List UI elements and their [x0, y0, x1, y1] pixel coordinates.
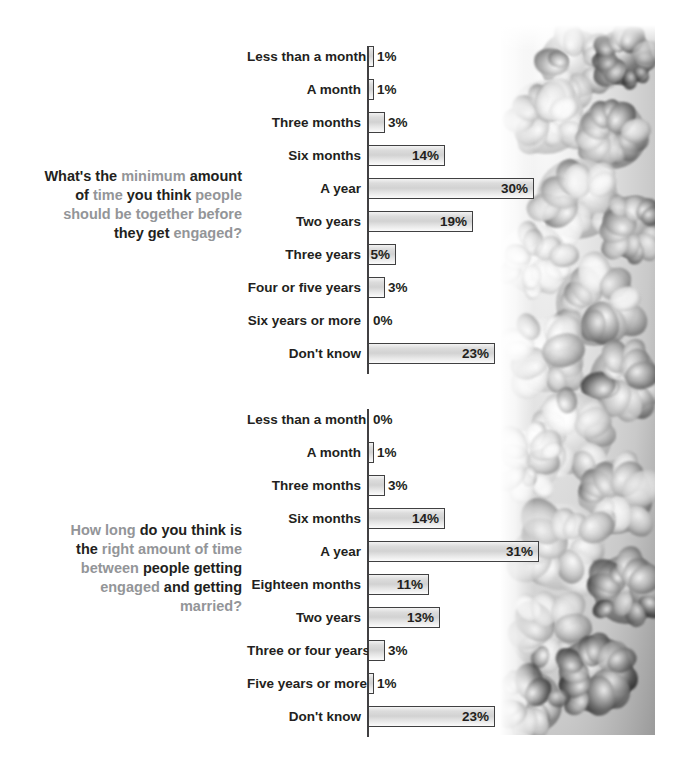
category-label: Two years [247, 211, 361, 233]
bar-value-label: 31% [506, 541, 533, 563]
category-label: Less than a month [247, 46, 361, 68]
category-label: Three months [247, 475, 361, 497]
question-line: engaged and getting [10, 578, 242, 597]
bar-row: Six years or more0% [247, 310, 667, 332]
category-label: A month [247, 442, 361, 464]
question-word: minimum [121, 168, 189, 184]
bar-value-label: 23% [462, 343, 489, 365]
bar-row: Don't know23% [247, 343, 667, 365]
bar-value-label: 3% [388, 475, 408, 497]
question-word: What's the [44, 168, 121, 184]
question-line: between people getting [10, 559, 242, 578]
category-label: A year [247, 178, 361, 200]
bar-row: Six months14% [247, 508, 667, 530]
bar-row: Five years or more1% [247, 673, 667, 695]
category-label: Three years [247, 244, 361, 266]
question-word: you think [127, 187, 195, 203]
question-word: time [93, 187, 127, 203]
bar [368, 277, 385, 298]
bar-value-label: 3% [388, 277, 408, 299]
category-label: Don't know [247, 343, 361, 365]
bar-row: Two years19% [247, 211, 667, 233]
bar-value-slot: 14% [368, 508, 445, 530]
question-line: they get engaged? [10, 224, 242, 243]
bar-value-slot: 23% [368, 706, 495, 728]
bar-value-slot: 31% [368, 541, 539, 563]
question-line: What's the minimum amount [10, 167, 242, 186]
bar-value-slot: 30% [368, 178, 534, 200]
bar-row: Three years5% [247, 244, 667, 266]
bar [368, 475, 385, 496]
category-label: Six months [247, 508, 361, 530]
question-line: should be together before [10, 205, 242, 224]
question-word: and getting [164, 579, 242, 595]
question-word: people [195, 187, 242, 203]
bar-value-label: 19% [440, 211, 467, 233]
bar [368, 442, 374, 463]
question-word: engaged [100, 579, 164, 595]
question-word: they get [114, 225, 174, 241]
bar-row: Three months3% [247, 475, 667, 497]
bar-value-label: 13% [407, 607, 434, 629]
bar-value-label: 5% [370, 244, 390, 266]
category-label: A month [247, 79, 361, 101]
bar-row: Eighteen months11% [247, 574, 667, 596]
bar [368, 79, 374, 100]
bar-row: Four or five years3% [247, 277, 667, 299]
category-label: Five years or more [247, 673, 361, 695]
bar-row: Less than a month0% [247, 409, 667, 431]
chart-question-0: What's the minimum amountof time you thi… [10, 167, 242, 243]
question-line: the right amount of time [10, 540, 242, 559]
category-label: Six months [247, 145, 361, 167]
question-line: of time you think people [10, 186, 242, 205]
chart-question-1: How long do you think isthe right amount… [10, 521, 242, 616]
question-word: engaged? [174, 225, 242, 241]
question-word: right amount of time [102, 541, 242, 557]
bar-value-label: 11% [397, 574, 423, 596]
bar-value-label: 23% [462, 706, 489, 728]
bar-value-label: 1% [377, 79, 397, 101]
question-word: should be together before [63, 206, 242, 222]
bar-value-slot: 13% [368, 607, 440, 629]
bar-row: Three months3% [247, 112, 667, 134]
bar-row: A year30% [247, 178, 667, 200]
question-word: of [75, 187, 93, 203]
category-label: A year [247, 541, 361, 563]
bar-value-slot: 23% [368, 343, 495, 365]
bar-value-label: 0% [373, 310, 393, 332]
bar-value-slot: 5% [368, 244, 396, 266]
bar-value-label: 14% [412, 508, 439, 530]
question-word: people getting [143, 560, 242, 576]
category-label: Three months [247, 112, 361, 134]
category-label: Eighteen months [247, 574, 361, 596]
bar-value-slot: 11% [368, 574, 429, 596]
category-label: Six years or more [247, 310, 361, 332]
bar-value-label: 30% [501, 178, 528, 200]
bar-value-label: 1% [377, 46, 397, 68]
bar-row: A month1% [247, 79, 667, 101]
question-word: How long [70, 522, 139, 538]
bar-value-label: 3% [388, 112, 408, 134]
question-word: between [81, 560, 143, 576]
question-line: How long do you think is [10, 521, 242, 540]
question-word: do you think is [140, 522, 242, 538]
bar-value-label: 1% [377, 442, 397, 464]
bar-row: Less than a month1% [247, 46, 667, 68]
category-label: Don't know [247, 706, 361, 728]
bar-value-label: 1% [377, 673, 397, 695]
bar-row: Three or four years3% [247, 640, 667, 662]
question-line: married? [10, 597, 242, 616]
category-label: Two years [247, 607, 361, 629]
category-label: Three or four years [247, 640, 361, 662]
bar-value-label: 3% [388, 640, 408, 662]
bar-value-slot: 14% [368, 145, 445, 167]
bar [368, 46, 374, 67]
bar-row: A month1% [247, 442, 667, 464]
question-word: amount [190, 168, 242, 184]
question-word: married? [180, 598, 242, 614]
question-word: the [76, 541, 102, 557]
category-label: Four or five years [247, 277, 361, 299]
bar-value-label: 0% [373, 409, 393, 431]
bar [368, 112, 385, 133]
category-label: Less than a month [247, 409, 361, 431]
